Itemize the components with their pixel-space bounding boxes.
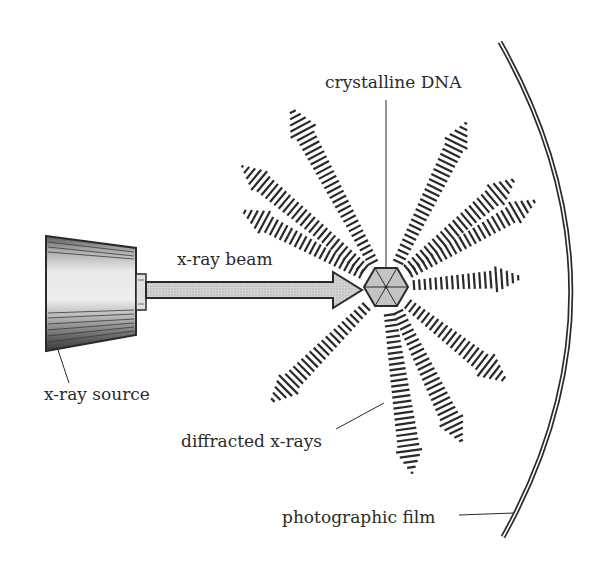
diffracted-xrays-leader bbox=[336, 403, 384, 429]
xray-beam-arrow bbox=[146, 272, 362, 308]
diagram-graphic bbox=[0, 0, 609, 566]
crystalline-dna-label: crystalline DNA bbox=[325, 74, 461, 91]
xray-beam-label: x-ray beam bbox=[177, 251, 273, 268]
photographic-film-label: photographic film bbox=[282, 509, 435, 526]
diffracted-xrays-label: diffracted x-rays bbox=[181, 433, 322, 450]
crystalline-dna-icon bbox=[364, 100, 408, 306]
xray-source-label: x-ray source bbox=[44, 386, 150, 403]
photographic-film-icon bbox=[459, 42, 571, 537]
xray-source-icon bbox=[46, 236, 146, 383]
diffraction-diagram: crystalline DNA x-ray beam x-ray source … bbox=[0, 0, 609, 566]
